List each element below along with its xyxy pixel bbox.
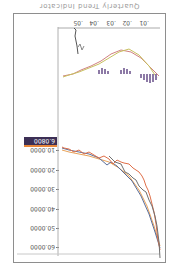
indicator-signal [78, 44, 84, 50]
ma-long-line [62, 150, 160, 246]
price-panel [62, 147, 160, 258]
chart-plot [0, 0, 179, 276]
macd-panel [63, 49, 159, 83]
macd-histogram [98, 68, 157, 83]
indicator-panel [74, 28, 84, 54]
macd-line [63, 49, 157, 78]
chart-stage: Quarterly Trend Indicator 10.0000 20.000… [0, 0, 179, 276]
candle-line [109, 156, 160, 258]
indicator-line [74, 28, 78, 54]
